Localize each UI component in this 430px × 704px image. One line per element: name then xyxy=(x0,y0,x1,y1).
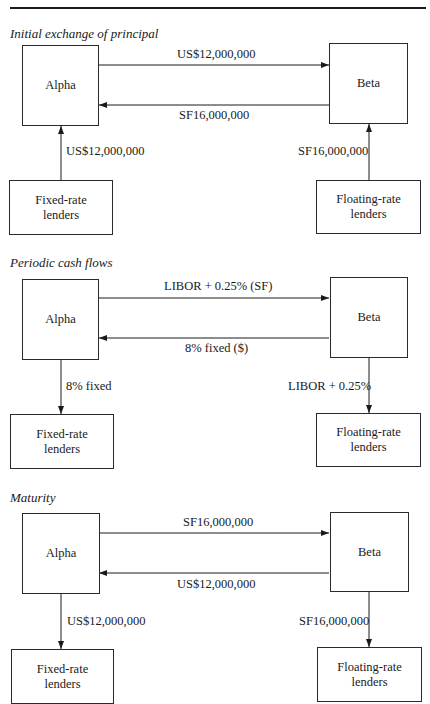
node-label: Floating-rate xyxy=(337,660,402,675)
flow-label-beta-to-floating: SF16,000,000 xyxy=(299,614,369,629)
node-label: Floating-rate xyxy=(336,425,401,440)
node-fixed-rate-lenders: Fixed-ratelenders xyxy=(10,414,114,469)
flow-label-alpha-to-beta: SF16,000,000 xyxy=(183,515,253,530)
node-beta: Beta xyxy=(329,43,408,124)
section-title-periodic-cash-flows: Periodic cash flows xyxy=(10,255,113,271)
node-label: lenders xyxy=(37,677,88,692)
flow-label-fixed-to-alpha: US$12,000,000 xyxy=(66,144,144,159)
node-floating-rate-lenders: Floating-ratelenders xyxy=(317,647,422,702)
node-alpha: Alpha xyxy=(22,513,100,594)
node-label: Beta xyxy=(358,545,381,560)
node-label: Alpha xyxy=(45,312,76,327)
node-fixed-rate-lenders: Fixed-ratelenders xyxy=(9,180,113,235)
flow-label-alpha-to-beta: LIBOR + 0.25% (SF) xyxy=(164,279,272,294)
flow-label-beta-to-alpha: US$12,000,000 xyxy=(177,577,255,592)
node-label: Beta xyxy=(358,310,381,325)
flow-label-beta-to-alpha: SF16,000,000 xyxy=(179,108,249,123)
node-beta: Beta xyxy=(330,277,408,358)
node-floating-rate-lenders: Floating-ratelenders xyxy=(316,413,421,467)
node-label: Floating-rate xyxy=(336,192,401,207)
flow-label-floating-to-beta: SF16,000,000 xyxy=(298,144,368,159)
node-fixed-rate-lenders: Fixed-ratelenders xyxy=(11,649,114,704)
node-label: Alpha xyxy=(46,546,77,561)
flow-label-alpha-to-beta: US$12,000,000 xyxy=(177,47,255,62)
flow-label-beta-to-floating: LIBOR + 0.25% xyxy=(288,379,371,394)
node-label: Fixed-rate xyxy=(35,193,86,208)
section-title-maturity: Maturity xyxy=(10,490,56,506)
node-label: lenders xyxy=(336,207,401,222)
flow-label-alpha-to-fixed: 8% fixed xyxy=(66,379,111,394)
flow-label-alpha-to-fixed: US$12,000,000 xyxy=(67,614,145,629)
node-alpha: Alpha xyxy=(22,279,99,360)
node-label: Beta xyxy=(357,76,380,91)
node-label: Alpha xyxy=(45,78,76,93)
node-floating-rate-lenders: Floating-ratelenders xyxy=(316,180,421,234)
node-label: lenders xyxy=(336,440,401,455)
section-title-initial-exchange: Initial exchange of principal xyxy=(10,26,158,42)
node-beta: Beta xyxy=(330,512,409,592)
node-label: lenders xyxy=(35,208,86,223)
node-alpha: Alpha xyxy=(22,45,99,126)
node-label: lenders xyxy=(337,675,402,690)
node-label: Fixed-rate xyxy=(37,662,88,677)
node-label: Fixed-rate xyxy=(36,427,87,442)
flow-label-beta-to-alpha: 8% fixed ($) xyxy=(185,341,248,356)
node-label: lenders xyxy=(36,442,87,457)
